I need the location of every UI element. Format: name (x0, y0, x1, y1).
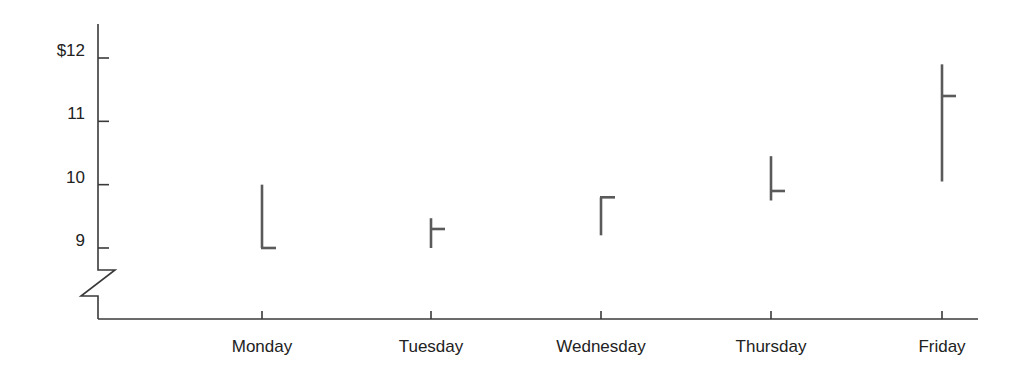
x-tick-label: Thursday (736, 337, 807, 356)
hlc-bar-tuesday (430, 218, 445, 248)
y-tick-label: $12 (57, 41, 85, 60)
hlc-bar-friday (941, 64, 956, 181)
y-tick-label: 9 (76, 231, 85, 250)
hlc-bars (261, 64, 956, 248)
x-tick-label: Monday (232, 337, 293, 356)
x-tick-label: Wednesday (556, 337, 646, 356)
hlc-bar-monday (261, 185, 276, 248)
hlc-bar-thursday (770, 156, 785, 200)
y-ticks: $1211109 (57, 41, 109, 250)
y-axis-with-break (81, 24, 115, 319)
x-tick-label: Tuesday (399, 337, 464, 356)
y-tick-label: 11 (67, 104, 85, 123)
y-tick-label: 10 (66, 168, 85, 187)
x-ticks: MondayTuesdayWednesdayThursdayFriday (232, 311, 966, 356)
hlc-bar-wednesday (600, 197, 615, 235)
hlc-chart: $1211109 MondayTuesdayWednesdayThursdayF… (0, 0, 1019, 375)
x-tick-label: Friday (918, 337, 966, 356)
axes (81, 24, 978, 319)
